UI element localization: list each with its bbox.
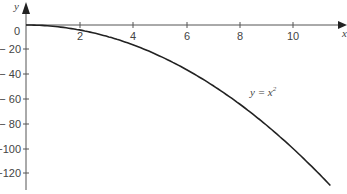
svg-text:0: 0 [14, 25, 20, 37]
curve-line [26, 25, 330, 186]
svg-text:2: 2 [77, 30, 83, 42]
svg-text:− 40: − 40 [0, 68, 21, 80]
svg-text:8: 8 [237, 30, 243, 42]
y-axis-arrow-icon [22, 2, 30, 14]
svg-text:−100: −100 [0, 143, 21, 155]
chart: y x 2 4 6 8 10 0 − 20 − 40 − 60 − 80 −10… [0, 0, 347, 194]
curve-label: y = x2 [249, 85, 277, 98]
svg-text:6: 6 [184, 30, 190, 42]
y-axis-label: y [13, 0, 19, 12]
svg-text:− 80: − 80 [0, 118, 21, 130]
svg-text:− 60: − 60 [0, 93, 21, 105]
svg-text:−120: −120 [0, 167, 21, 179]
svg-text:4: 4 [130, 30, 136, 42]
svg-text:10: 10 [287, 30, 299, 42]
x-axis-label: x [341, 27, 347, 39]
svg-text:− 20: − 20 [0, 43, 21, 55]
y-ticks: 0 − 20 − 40 − 60 − 80 −100 −120 [0, 25, 29, 179]
